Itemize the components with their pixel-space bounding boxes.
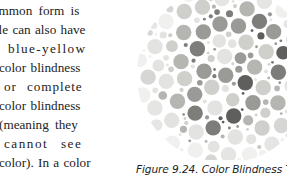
figure-caption: Figure 9.24. Color Blindness Test [136, 163, 287, 176]
plate-dot [155, 33, 158, 36]
plate-dot [187, 105, 202, 120]
plate-dot [212, 5, 216, 9]
plate-dot [217, 49, 232, 64]
plate-dot [248, 53, 254, 59]
ishihara-plate-svg [133, 0, 287, 160]
plate-dot [208, 55, 215, 62]
plate-dot [212, 16, 227, 31]
plate-dot [212, 74, 216, 78]
plate-dot [158, 91, 167, 100]
plate-dot [203, 99, 207, 103]
plate-dot [228, 127, 231, 130]
plate-dot [143, 49, 146, 52]
plate-dot [231, 18, 246, 33]
plate-dot [278, 81, 281, 84]
plate-dot [269, 18, 272, 21]
plate-dot [209, 0, 213, 1]
plate-dot [279, 39, 282, 42]
plate-dot [179, 133, 182, 136]
plate-dot [235, 52, 247, 64]
plate-dot [222, 121, 225, 124]
plate-dot [168, 66, 174, 72]
plate-dot [151, 119, 163, 131]
plate-dot [207, 41, 210, 44]
plate-dot [197, 80, 203, 86]
plate-dot [231, 62, 234, 65]
plate-dot [180, 126, 187, 133]
plate-dot [164, 113, 179, 128]
plate-dot [280, 138, 284, 142]
plate-dot [238, 34, 253, 49]
body-text-line: blue-yellow [0, 39, 135, 58]
plate-dot [254, 120, 269, 135]
plate-dot [246, 128, 249, 131]
plate-dot [152, 88, 158, 94]
plate-dot [213, 34, 227, 48]
plate-dot [163, 55, 169, 61]
plate-dot [188, 142, 203, 157]
plate-dot [242, 147, 257, 160]
plate-dot [221, 147, 236, 160]
plate-dot [228, 39, 237, 48]
plate-dot [251, 29, 254, 32]
plate-dot [264, 136, 279, 151]
body-text-line: (meaning they [0, 115, 135, 134]
plate-dot [166, 40, 178, 52]
plate-dot [226, 93, 240, 107]
plate-dot [275, 3, 287, 18]
plate-dot [159, 74, 174, 89]
plate-dot [241, 108, 244, 111]
plate-dot [233, 4, 237, 8]
body-text-line: color blindness [0, 96, 135, 115]
plate-dot [207, 52, 210, 55]
plate-dot [222, 85, 229, 92]
plate-dot [232, 82, 236, 86]
plate-dot [258, 44, 273, 59]
body-text-line: color). In a color [0, 153, 135, 172]
plate-dot [257, 32, 264, 39]
plate-dot [191, 59, 195, 63]
plate-dot [158, 14, 173, 29]
plate-dot [270, 95, 285, 110]
plate-dot [285, 109, 287, 113]
plate-dot [214, 9, 220, 15]
plate-dot [203, 18, 206, 21]
body-text-line: or complete [0, 77, 135, 96]
plate-dot [255, 114, 258, 117]
plate-dot [228, 129, 243, 144]
plate-dot [232, 0, 247, 1]
plate-dot [176, 25, 191, 40]
plate-dot [283, 20, 287, 29]
plate-dot [150, 22, 157, 29]
plate-dot [245, 95, 260, 110]
dot-field [133, 0, 287, 160]
plate-dot [209, 14, 213, 18]
plate-dot [247, 59, 262, 74]
plate-dot [188, 139, 191, 142]
plate-dot [267, 77, 270, 80]
plate-dot [149, 55, 152, 58]
plate-dot [242, 92, 245, 95]
plate-dot [274, 42, 277, 45]
plate-dot [205, 140, 208, 143]
plate-dot [260, 108, 270, 118]
plate-dot [221, 134, 225, 138]
plate-dot [274, 118, 287, 133]
plate-dot [177, 4, 192, 19]
plate-dot [213, 48, 216, 51]
plate-dot [256, 80, 271, 95]
plate-dot [184, 43, 188, 47]
plate-dot [243, 115, 253, 125]
plate-dot [268, 63, 271, 66]
plate-dot [188, 124, 203, 139]
plate-dot [140, 69, 155, 84]
plate-dot [187, 87, 202, 102]
plate-dot [184, 117, 187, 120]
plate-dot [235, 66, 242, 73]
plate-dot [237, 158, 241, 160]
body-text-line: ple can also have [0, 20, 135, 39]
plate-dot [166, 5, 173, 12]
plate-dot [135, 87, 150, 102]
plate-dot [196, 63, 211, 78]
plate-dot [226, 31, 232, 37]
